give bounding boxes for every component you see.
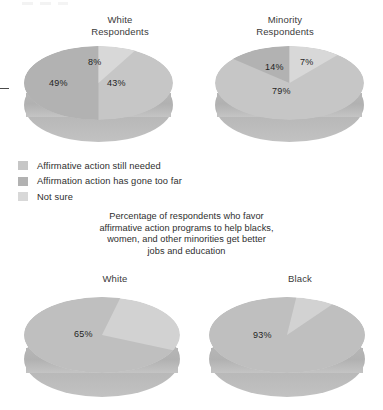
pie-chart-black-favor: 93% bbox=[209, 297, 365, 401]
legend-item-too-far: Affirmation action has gone too far bbox=[18, 174, 182, 190]
legend-swatch-not-sure bbox=[18, 192, 28, 201]
pie-label-not-sure: 7% bbox=[300, 57, 313, 67]
pie-label-too-far: 14% bbox=[265, 62, 284, 72]
chart-title-black-favor: Black bbox=[255, 273, 345, 285]
pie-chart-minority-respondents: 7% 14% 79% bbox=[215, 46, 364, 146]
pie-label-still-needed: 79% bbox=[272, 86, 291, 96]
legend-label-too-far: Affirmation action has gone too far bbox=[37, 176, 182, 186]
pie-label-too-far: 49% bbox=[49, 78, 68, 88]
pie-chart-white-respondents: 8% 49% 43% bbox=[24, 46, 173, 146]
legend-item-not-sure: Not sure bbox=[18, 189, 182, 205]
figure-caption: Percentage of respondents who favor affi… bbox=[84, 211, 289, 257]
pie-top-face bbox=[209, 297, 365, 373]
legend-swatch-still-needed bbox=[18, 161, 28, 170]
legend-swatch-too-far bbox=[18, 177, 28, 186]
legend-label-not-sure: Not sure bbox=[37, 192, 73, 202]
chart-title-white-respondents: White Respondents bbox=[60, 14, 180, 38]
legend-item-still-needed: Affirmative action still needed bbox=[18, 158, 182, 174]
pie-label-favor: 65% bbox=[74, 329, 93, 339]
figure-root: White Respondents 8% 49% 43% Minority Re… bbox=[0, 0, 383, 410]
chart-title-white-favor: White bbox=[70, 273, 160, 285]
pie-label-favor: 93% bbox=[253, 330, 272, 340]
pie-top-face bbox=[24, 297, 180, 373]
scan-artifact bbox=[40, 2, 51, 5]
legend: Affirmative action still needed Affirmat… bbox=[18, 158, 182, 205]
scan-artifact bbox=[58, 2, 68, 5]
edge-tick-mark bbox=[0, 88, 9, 89]
pie-top-face bbox=[215, 46, 364, 120]
pie-label-not-sure: 8% bbox=[88, 57, 101, 67]
pie-label-still-needed: 43% bbox=[107, 78, 126, 88]
chart-title-minority-respondents: Minority Respondents bbox=[225, 14, 345, 38]
legend-label-still-needed: Affirmative action still needed bbox=[37, 161, 161, 171]
pie-chart-white-favor: 65% bbox=[24, 297, 180, 401]
pie-slice-favor bbox=[209, 297, 365, 373]
scan-artifact bbox=[22, 2, 33, 5]
